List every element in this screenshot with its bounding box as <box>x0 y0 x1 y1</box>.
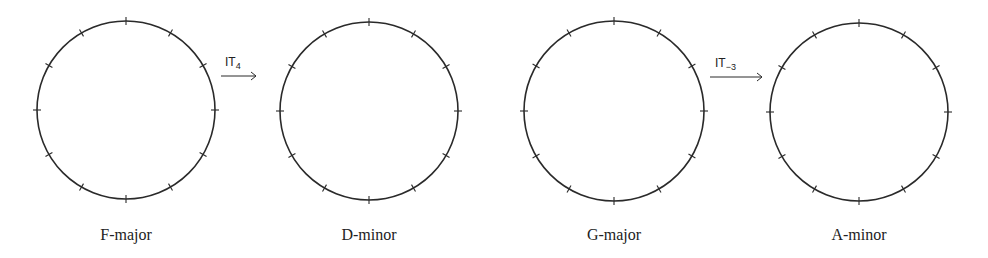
key-label-g-major: G-major <box>587 226 641 244</box>
pitch-circle-d-minor <box>276 18 462 204</box>
operator-subscript: 4 <box>236 61 241 71</box>
pitch-circle-f-major <box>33 17 219 203</box>
pitch-circle-a-minor <box>766 19 952 205</box>
operator-label-it4: IT4 <box>225 55 241 71</box>
key-label-f-major: F-major <box>100 226 152 244</box>
arrow-it4 <box>221 72 256 80</box>
key-label-d-minor: D-minor <box>341 226 396 244</box>
operator-base: IT <box>715 56 726 70</box>
operator-subscript: −3 <box>726 62 736 72</box>
operator-label-it-3: IT−3 <box>715 56 736 72</box>
transformation-arrows <box>221 72 762 81</box>
pitch-circle-g-major <box>520 17 708 205</box>
operator-base: IT <box>225 55 236 69</box>
key-label-a-minor: A-minor <box>831 226 886 244</box>
diagram-canvas <box>0 0 988 258</box>
arrow-it-3 <box>710 73 762 81</box>
